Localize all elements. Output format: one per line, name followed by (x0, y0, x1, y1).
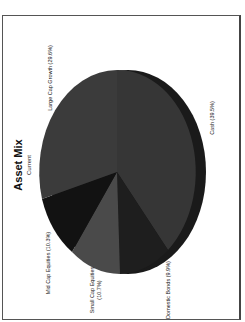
chart-subtitle: Current (26, 155, 32, 175)
label-mid-cap-equities: Mid Cap Equities (10.3%) (45, 232, 51, 295)
pie-chart: Asset Mix Current Large Cap Growth (29.6… (0, 0, 245, 322)
label-domestic-bonds: Domestic Bonds (9.9%) (165, 261, 171, 319)
label-small-cap-line1: Small Cap Equities (89, 267, 95, 314)
label-small-cap-line2: (10.7%) (96, 280, 102, 299)
chart-title: Asset Mix (12, 138, 24, 190)
label-large-cap-growth: Large Cap Growth (29.6%) (47, 45, 53, 111)
label-cash: Cash (39.5%) (209, 101, 215, 135)
